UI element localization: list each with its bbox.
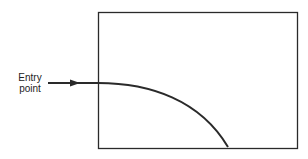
- arrowhead-icon: [70, 80, 80, 87]
- trajectory-curve: [98, 83, 228, 147]
- diagram-canvas: [0, 0, 308, 159]
- boundary-rectangle: [99, 13, 298, 149]
